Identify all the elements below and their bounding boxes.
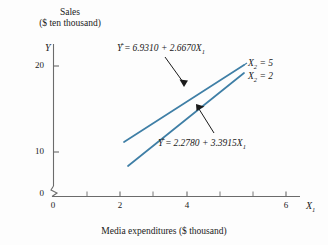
regression-line-x2-5 (124, 65, 244, 142)
chart-figure: Sales ($ ten thousand) Y X1 20 10 0 0 2 … (0, 0, 328, 245)
equation-upper-eq-sign: ̂ = (122, 43, 132, 53)
equation-upper-body: 6.9310 + 2.6670X (132, 43, 201, 53)
series-label-x2-5: X2 = 5 (248, 58, 273, 70)
x-tick-label-2: 2 (110, 200, 130, 210)
y-axis-symbol-text: Y (45, 42, 51, 53)
y-tick-label-10: 10 (22, 146, 44, 156)
y-axis-symbol: Y (45, 42, 51, 53)
equation-lower-yhat: Y (158, 138, 163, 149)
series-label-x2-5-subscript: 2 (254, 63, 257, 70)
equation-label-upper: Ŷ = 6.9310 + 2.6670X1 (117, 43, 205, 55)
leader-line-x2-5 (244, 63, 247, 65)
annotation-arrow-upper (165, 57, 188, 87)
y-axis-title: Sales ($ ten thousand) (16, 7, 124, 28)
y-axis-title-line1: Sales (16, 7, 124, 18)
series-label-x2-5-value: = 5 (259, 58, 273, 68)
series-label-x2-2-subscript: 2 (254, 76, 257, 83)
axis-break-icon (51, 186, 57, 197)
series-label-x2-2: X2 = 2 (248, 71, 273, 83)
x-tick-label-6: 6 (276, 200, 296, 210)
x-axis-symbol: X1 (306, 200, 315, 213)
equation-label-lower: Ŷ = 2.2780 + 3.3915X1 (158, 138, 246, 150)
equation-lower-subscript: 1 (243, 143, 246, 150)
equation-upper-subscript: 1 (202, 48, 205, 55)
x-tick-label-0: 0 (43, 200, 63, 210)
series-label-x2-2-value: = 2 (259, 71, 273, 81)
y-tick-label-20: 20 (22, 60, 44, 70)
x-axis-title: Media expenditures ($ thousand) (64, 226, 264, 237)
y-tick-label-0: 0 (22, 188, 44, 198)
annotation-arrow-lower (196, 104, 214, 133)
x-axis-symbol-subscript: 1 (312, 206, 315, 213)
x-tick-label-4: 4 (177, 200, 197, 210)
equation-lower-eq-sign: ̂ = (163, 138, 173, 148)
y-axis-title-line2: ($ ten thousand) (16, 18, 124, 29)
equation-lower-body: 2.2780 + 3.3915X (173, 138, 242, 148)
equation-upper-yhat: Y (117, 43, 122, 54)
regression-line-x2-2 (128, 73, 244, 166)
